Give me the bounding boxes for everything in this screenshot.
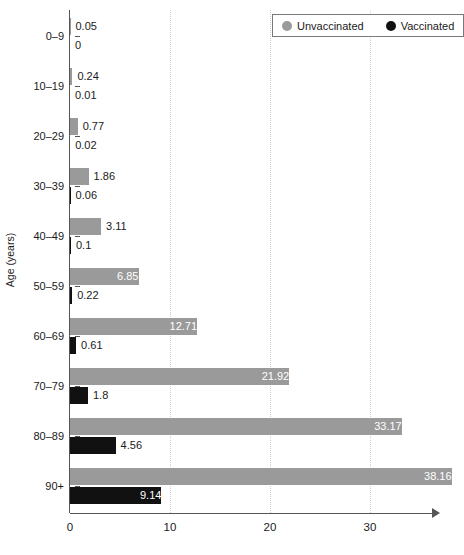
bar-value-label: 21.92 <box>70 368 295 385</box>
bar-value-label: 0.1 <box>71 237 91 254</box>
bar-unvaccinated-40_49 <box>70 218 101 235</box>
bar-value-label: 38.16 <box>70 468 458 485</box>
bar-value-label: 1.8 <box>88 387 108 404</box>
chart-legend: UnvaccinatedVaccinated <box>272 14 464 37</box>
y-tick-label-70_79: 70–79 <box>14 380 64 392</box>
legend-label: Unvaccinated <box>297 20 364 32</box>
y-tick-label-20_29: 20–29 <box>14 130 64 142</box>
legend-label: Vaccinated <box>401 20 455 32</box>
bar-value-label: 12.71 <box>70 318 203 335</box>
bar-value-label: 9.14 <box>70 487 167 504</box>
bar-value-label: 0.02 <box>70 137 96 154</box>
x-tick-label-30: 30 <box>364 521 377 533</box>
bar-value-label: 0.24 <box>72 68 98 85</box>
gridline-30 <box>370 10 371 513</box>
y-tick-label-30_39: 30–39 <box>14 180 64 192</box>
legend-swatch-circle-icon <box>282 21 292 31</box>
x-tick-label-20: 20 <box>264 521 277 533</box>
x-tick-label-10: 10 <box>164 521 177 533</box>
y-tick-label-40_49: 40–49 <box>14 230 64 242</box>
y-tick-label-10_19: 10–19 <box>14 80 64 92</box>
x-axis-arrow-icon <box>432 508 440 518</box>
x-tick-label-0: 0 <box>67 521 73 533</box>
legend-entry-unvaccinated[interactable]: Unvaccinated <box>282 20 364 32</box>
y-tick-label-0_9: 0–9 <box>14 30 64 42</box>
bar-value-label: 0.22 <box>72 287 98 304</box>
bar-value-label: 0 <box>70 37 81 54</box>
bar-value-label: 33.17 <box>70 418 408 435</box>
x-axis-line <box>70 513 435 514</box>
bar-value-label: 6.85 <box>70 268 145 285</box>
y-axis-tick-group: 0–910–1920–2930–3940–4950–5960–6970–7980… <box>12 0 64 555</box>
y-axis-line <box>69 10 70 513</box>
bar-value-label: 1.86 <box>89 168 115 185</box>
y-tick-label-60_69: 60–69 <box>14 330 64 342</box>
y-tick-label-80_89: 80–89 <box>14 430 64 442</box>
y-tick-label-50_59: 50–59 <box>14 280 64 292</box>
y-tick-label-90+: 90+ <box>14 480 64 492</box>
bar-value-label: 0.01 <box>70 87 96 104</box>
gridline-10 <box>170 10 171 513</box>
plot-area: 0.0500.240.010.770.021.860.063.110.16.85… <box>70 10 445 513</box>
bar-vaccinated-80_89 <box>70 437 116 454</box>
bar-value-label: 4.56 <box>116 437 142 454</box>
bar-value-label: 0.06 <box>71 187 97 204</box>
bar-value-label: 0.77 <box>78 118 104 135</box>
bar-value-label: 0.05 <box>71 18 97 35</box>
bar-value-label: 3.11 <box>101 218 127 235</box>
legend-entry-vaccinated[interactable]: Vaccinated <box>386 20 455 32</box>
bar-vaccinated-70_79 <box>70 387 88 404</box>
bar-unvaccinated-20_29 <box>70 118 78 135</box>
bar-unvaccinated-30_39 <box>70 168 89 185</box>
bar-value-label: 0.61 <box>76 337 102 354</box>
legend-swatch-circle-icon <box>386 21 396 31</box>
gridline-20 <box>270 10 271 513</box>
